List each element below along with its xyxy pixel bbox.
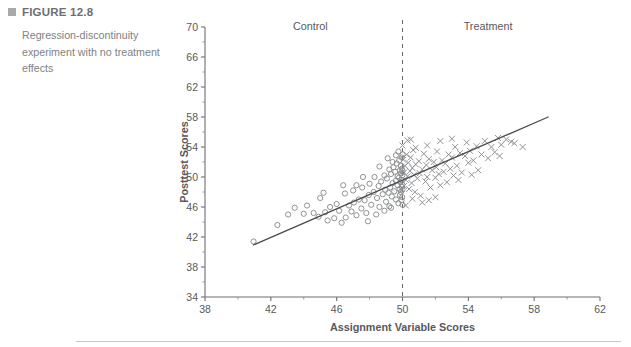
data-point-cross (485, 156, 490, 161)
data-point-cross (482, 138, 487, 143)
data-point-circle (325, 218, 330, 223)
data-point-cross (466, 160, 471, 165)
data-point-circle (377, 164, 382, 169)
data-point-circle (367, 181, 372, 186)
data-point-cross (441, 169, 446, 174)
data-point-circle (382, 208, 387, 213)
data-point-circle (385, 156, 390, 161)
data-point-cross (424, 143, 429, 148)
x-axis-ticks: 38424650545862 (199, 297, 606, 315)
data-point-cross (503, 137, 508, 142)
x-tick-label: 42 (265, 303, 277, 315)
data-point-cross (489, 144, 494, 149)
x-axis-title: Assignment Variable Scores (330, 321, 475, 333)
figure-caption-block: FIGURE 12.8 Regression-discontinuity exp… (8, 6, 186, 77)
data-point-cross (420, 200, 425, 205)
data-point-circle (292, 205, 297, 210)
data-point-cross (423, 179, 428, 184)
data-point-cross (409, 180, 414, 185)
data-point-circle (311, 210, 316, 215)
data-point-cross (418, 193, 423, 198)
data-point-circle (365, 219, 370, 224)
data-point-circle (360, 174, 365, 179)
x-tick-label: 46 (331, 303, 343, 315)
data-point-circle (332, 216, 337, 221)
data-point-circle (393, 197, 398, 202)
data-point-circle (377, 204, 382, 209)
data-point-cross (444, 180, 449, 185)
square-bullet-icon (8, 8, 16, 16)
data-point-cross (413, 145, 418, 150)
data-point-cross (438, 138, 443, 143)
data-point-cross (479, 152, 484, 157)
data-point-circle (275, 222, 280, 227)
data-point-circle (374, 195, 379, 200)
y-tick-label: 38 (186, 261, 198, 273)
data-point-circle (369, 202, 374, 207)
control-series-markers (251, 149, 405, 244)
y-tick-label: 62 (186, 81, 198, 93)
data-point-circle (364, 210, 369, 215)
data-point-circle (396, 149, 401, 154)
regression-fit-line (254, 117, 549, 245)
data-point-cross (421, 151, 426, 156)
y-tick-label: 70 (186, 21, 198, 33)
data-point-circle (343, 215, 348, 220)
figure-description-text: Regression-discontinuity experiment with… (8, 27, 172, 77)
data-point-cross (456, 177, 461, 182)
data-point-cross (499, 142, 504, 147)
x-tick-label: 58 (528, 303, 540, 315)
chart-canvas: Control Treatment 34384246505458626670 3… (176, 0, 631, 347)
axis-lines (205, 27, 600, 297)
y-tick-label: 58 (186, 111, 198, 123)
data-point-circle (354, 183, 359, 188)
data-point-cross (497, 153, 502, 158)
data-point-circle (321, 190, 326, 195)
data-point-cross (438, 183, 443, 188)
data-point-circle (251, 239, 256, 244)
data-point-cross (436, 171, 441, 176)
data-point-circle (360, 185, 365, 190)
data-point-cross (459, 170, 464, 175)
data-point-cross (464, 140, 469, 145)
data-point-cross (492, 150, 497, 155)
data-point-cross (433, 195, 438, 200)
y-axis-title: Posttest Scores (178, 121, 190, 203)
data-point-cross (408, 155, 413, 160)
data-point-circle (349, 209, 354, 214)
data-point-circle (327, 204, 332, 209)
data-point-circle (359, 206, 364, 211)
data-point-cross (469, 172, 474, 177)
data-point-cross (424, 162, 429, 167)
x-tick-label: 50 (397, 303, 409, 315)
data-point-circle (286, 212, 291, 217)
y-tick-label: 42 (186, 231, 198, 243)
data-point-cross (403, 203, 408, 208)
treatment-series-markers (400, 135, 526, 208)
treatment-region-label: Treatment (464, 20, 513, 32)
data-point-cross (452, 144, 457, 149)
footer-divider-rule (76, 341, 621, 342)
data-point-cross (424, 174, 429, 179)
data-point-cross (428, 185, 433, 190)
data-point-cross (448, 166, 453, 171)
x-tick-label: 54 (462, 303, 474, 315)
data-point-cross (410, 196, 415, 201)
data-point-circle (339, 220, 344, 225)
data-point-cross (434, 149, 439, 154)
data-point-cross (412, 189, 417, 194)
data-point-circle (393, 153, 398, 158)
data-point-cross (426, 198, 431, 203)
data-point-circle (354, 213, 359, 218)
regression-discontinuity-scatter-chart: Control Treatment 34384246505458626670 3… (176, 0, 631, 347)
data-point-circle (301, 211, 306, 216)
data-point-circle (374, 212, 379, 217)
data-point-circle (304, 203, 309, 208)
y-tick-label: 66 (186, 51, 198, 63)
data-point-cross (454, 163, 459, 168)
data-point-circle (342, 191, 347, 196)
data-point-circle (334, 201, 339, 206)
data-point-cross (476, 168, 481, 173)
data-point-circle (341, 183, 346, 188)
data-point-circle (392, 189, 397, 194)
